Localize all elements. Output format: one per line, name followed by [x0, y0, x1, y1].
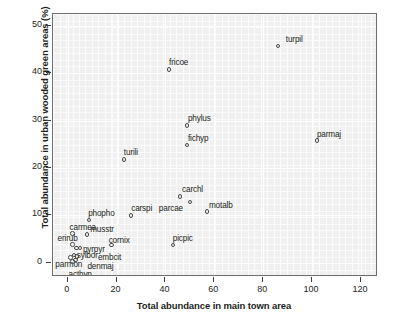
data-point-label: musstr: [90, 225, 114, 234]
x-axis-tick-label: 60: [198, 284, 228, 294]
gridline-vertical: [361, 14, 362, 275]
x-axis-tick-label: 20: [101, 284, 131, 294]
x-axis-tick: [67, 277, 68, 282]
x-axis-tick: [116, 277, 117, 282]
y-axis-tick-label: 40: [20, 66, 42, 76]
x-axis-tick: [262, 277, 263, 282]
data-point: [185, 143, 189, 147]
data-point: [74, 246, 78, 250]
data-point-label: turpil: [286, 35, 303, 44]
y-axis-tick-label: 10: [20, 208, 42, 218]
data-point-label: picpic: [173, 234, 193, 243]
gridline-vertical: [312, 14, 313, 275]
data-point-label: erirub: [58, 234, 78, 243]
gridline-vertical: [165, 14, 166, 275]
data-point: [167, 67, 171, 71]
y-axis-tick-label: 50: [20, 19, 42, 29]
data-point: [185, 123, 189, 127]
data-point: [122, 157, 126, 161]
y-axis-tick: [46, 120, 51, 121]
data-point: [85, 232, 89, 236]
data-point-label: parmaj: [317, 130, 341, 139]
data-point: [129, 213, 133, 217]
y-axis-tick: [46, 72, 51, 73]
data-point: [315, 138, 319, 142]
data-point-label: parcae: [159, 204, 183, 213]
y-axis-tick-label: 20: [20, 161, 42, 171]
data-point-label: carchl: [182, 185, 203, 194]
x-axis-tick: [311, 277, 312, 282]
plot-panel: turpilfricoephylusfichypparmajturilicarc…: [52, 13, 377, 276]
data-point-label: embcit: [98, 253, 121, 262]
x-axis-tick-label: 100: [296, 284, 326, 294]
gridline-horizontal: [53, 168, 376, 169]
y-axis-tick: [46, 262, 51, 263]
data-point-label: acthyp: [69, 270, 92, 276]
data-point-label: phylus: [188, 114, 211, 123]
y-axis-tick: [46, 214, 51, 215]
x-axis-tick-label: 80: [247, 284, 277, 294]
x-axis-tick-label: 0: [52, 284, 82, 294]
data-point-label: phopho: [88, 209, 114, 218]
data-point: [205, 209, 209, 213]
x-axis-tick: [360, 277, 361, 282]
scatter-plot-figure: Total abundance in urban wooded green ar…: [0, 0, 393, 323]
gridline-vertical: [263, 14, 264, 275]
data-point-label: parmon: [55, 260, 82, 269]
data-point: [87, 218, 91, 222]
gridline-horizontal: [53, 121, 376, 122]
x-axis-tick-label: 120: [345, 284, 375, 294]
y-axis-tick: [46, 167, 51, 168]
data-point: [70, 259, 74, 263]
data-point-label: fichyp: [188, 134, 209, 143]
y-axis-tick-label: 0: [20, 256, 42, 266]
y-axis-tick-label: 30: [20, 114, 42, 124]
data-point: [171, 243, 175, 247]
data-point: [178, 194, 182, 198]
gridline-horizontal: [53, 26, 376, 27]
x-axis-title: Total abundance in main town area: [48, 300, 380, 311]
data-point: [188, 200, 192, 204]
data-point-label: turili: [124, 148, 138, 157]
gridline-vertical: [214, 14, 215, 275]
data-point: [276, 44, 280, 48]
x-axis-tick: [164, 277, 165, 282]
data-point-label: cornix: [109, 236, 130, 245]
gridline-horizontal: [53, 73, 376, 74]
y-axis-tick: [46, 25, 51, 26]
x-axis-tick: [213, 277, 214, 282]
data-point-label: motalb: [209, 201, 233, 210]
data-point-label: fricoe: [169, 58, 188, 67]
data-point-label: carspi: [131, 204, 152, 213]
x-axis-tick-label: 40: [149, 284, 179, 294]
y-axis-title: Total abundance in urban wooded green ar…: [39, 0, 50, 258]
